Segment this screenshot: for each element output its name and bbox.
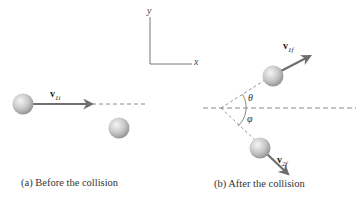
angle-phi-label: φ [247,113,253,124]
collision-diagram: y x v1i (a) Before the collision v1f v2f… [0,0,363,203]
panel-a-before [13,94,147,139]
ball-1-scattered [263,66,284,87]
caption-after: (b) After the collision [214,178,305,189]
velocity-1i-label: v1i [50,88,60,102]
y-axis-label: y [147,5,151,16]
angle-theta-label: θ [248,92,253,103]
coordinate-axes [150,17,192,64]
velocity-1f-label: v1f [283,40,293,54]
velocity-1f-arrow [281,56,310,71]
caption-before: (a) Before the collision [21,177,118,188]
x-axis-label: x [194,56,198,67]
ball-1-incoming [13,94,34,115]
velocity-2f-label: v2f [277,154,287,168]
angle-arc [238,94,246,126]
ball-2-target [109,118,130,139]
ball-2-scattered [250,138,271,159]
ball-1-path-dashed [221,80,265,108]
